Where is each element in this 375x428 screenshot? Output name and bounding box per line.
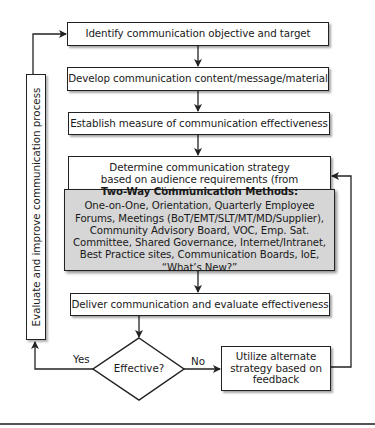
bottom-rule — [0, 423, 375, 425]
step-deliver-label: Deliver communication and evaluate effec… — [71, 299, 328, 311]
step-establish-label: Establish measure of communication effec… — [70, 118, 328, 130]
yes-label: Yes — [73, 353, 90, 365]
step-develop: Develop communication content/message/ma… — [67, 67, 329, 91]
arrow-evaluate-to-identify — [33, 34, 66, 74]
step-deliver: Deliver communication and evaluate effec… — [70, 293, 330, 316]
step-identify: Identify communication objective and tar… — [67, 22, 329, 46]
no-label: No — [191, 355, 205, 367]
step-identify-label: Identify communication objective and tar… — [86, 28, 311, 40]
step-establish: Establish measure of communication effec… — [68, 112, 330, 135]
methods-title: Two-Way Communication Methods: — [101, 186, 298, 198]
methods-list: One-on-One, Orientation, Quarterly Emplo… — [68, 200, 331, 273]
step-alternate-label: Utilize alternate strategy based on feed… — [230, 351, 322, 386]
evaluate-improve-label: Evaluate and improve communication proce… — [30, 88, 42, 327]
step-develop-label: Develop communication content/message/ma… — [68, 73, 328, 85]
decision-label: Effective? — [93, 362, 185, 374]
step-alternate: Utilize alternate strategy based on feed… — [221, 346, 331, 391]
evaluate-improve-box: Evaluate and improve communication proce… — [26, 74, 46, 340]
communication-methods-box: Two-Way Communication Methods: One-on-On… — [64, 189, 335, 271]
